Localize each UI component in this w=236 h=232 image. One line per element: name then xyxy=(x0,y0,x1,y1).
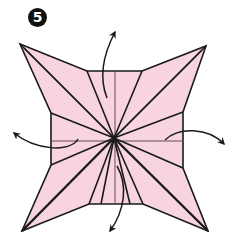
step-number-badge: 5 xyxy=(28,8,47,27)
origami-star-figure xyxy=(0,0,236,232)
